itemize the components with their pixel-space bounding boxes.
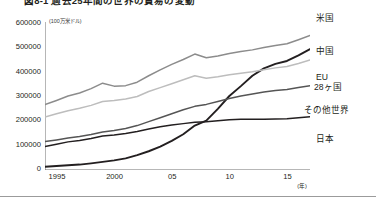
series-line-中国 (45, 49, 310, 167)
x-axis-unit-label: (年) (297, 184, 307, 190)
series-line-米国 (45, 36, 310, 105)
x-tick-2010: 10 (226, 173, 234, 181)
series-label-china: 中国 (316, 47, 334, 56)
x-tick-1995: 1995 (49, 173, 66, 181)
series-label-eu-line2: 28ヶ国 (314, 83, 342, 92)
plot-area (45, 22, 310, 170)
bottom-divider (0, 196, 376, 197)
series-label-japan: 日本 (316, 135, 334, 144)
series-lines (45, 36, 310, 167)
chart-svg (45, 22, 310, 170)
series-label-eu-line1: EU (316, 73, 328, 82)
x-tick-2005: 05 (168, 173, 176, 181)
figure-container: 図8-1 過去25年間の世界の貿易の変動 (100万米ドル) 600000 50… (0, 0, 376, 202)
series-label-rest-of-world: その他世界 (304, 106, 349, 115)
x-tick-2000: 2000 (106, 173, 123, 181)
series-line-日本 (45, 117, 310, 147)
series-line-EU 28ヶ国 (45, 60, 310, 117)
x-tick-2015: 15 (283, 173, 291, 181)
series-line-その他世界 (45, 86, 310, 142)
series-label-us: 米国 (316, 14, 334, 23)
